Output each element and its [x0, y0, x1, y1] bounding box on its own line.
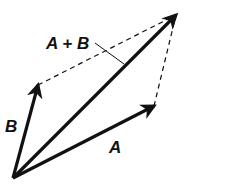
vector-b-label: B	[5, 117, 17, 136]
dashed-side-a-to-sum	[154, 15, 176, 106]
vector-addition-diagram: A + B B A	[0, 0, 239, 187]
sum-label: A + B	[45, 34, 89, 53]
vector-a-label: A	[108, 138, 121, 157]
vector-sum-arrow	[13, 15, 176, 178]
sum-label-leader-line	[95, 43, 124, 64]
vector-a-arrow	[13, 106, 154, 178]
